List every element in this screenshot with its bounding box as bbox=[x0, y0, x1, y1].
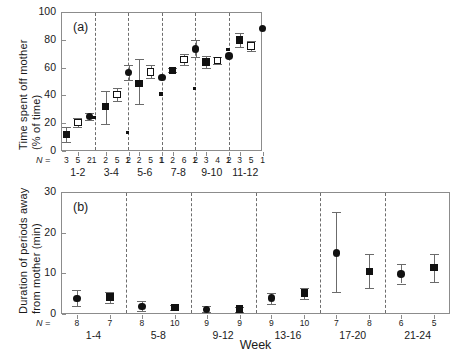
error-bar-cap-upper bbox=[430, 254, 439, 255]
n-value: 9 bbox=[200, 318, 214, 328]
group-label: 17-20 bbox=[323, 329, 383, 341]
x-tick-mark bbox=[106, 152, 107, 156]
marker-open-square bbox=[247, 42, 255, 50]
marker-filled-square bbox=[63, 131, 71, 139]
marker-filled-circle bbox=[73, 295, 81, 303]
error-bar-cap-upper bbox=[146, 65, 155, 66]
panel-letter: (b) bbox=[73, 200, 88, 214]
y-tick-mark bbox=[62, 151, 66, 152]
y-axis-title-line2: (% of time) bbox=[30, 39, 43, 150]
error-bar-cap-upper bbox=[124, 65, 133, 66]
group-label: 21-24 bbox=[388, 329, 448, 341]
group-label: 5-8 bbox=[128, 329, 188, 341]
error-bar-cap-lower bbox=[146, 78, 155, 79]
group-divider bbox=[126, 193, 127, 313]
error-bar-cap-lower bbox=[191, 57, 200, 58]
x-tick-mark bbox=[240, 315, 241, 319]
n-row-label: N = bbox=[36, 318, 50, 328]
y-axis-title-line1: Duration of periods away bbox=[17, 188, 30, 314]
x-tick-mark bbox=[110, 315, 111, 319]
group-divider bbox=[385, 193, 386, 313]
marker-filled-square bbox=[236, 305, 244, 313]
x-axis-title: Week bbox=[196, 338, 316, 352]
x-tick-mark bbox=[173, 152, 174, 156]
marker-filled-square bbox=[169, 67, 177, 75]
n-value: 8 bbox=[362, 318, 376, 328]
x-tick-mark bbox=[207, 315, 208, 319]
n-value: 7 bbox=[329, 318, 343, 328]
marker-filled-circle bbox=[333, 249, 341, 257]
error-bar-cap-lower bbox=[105, 303, 114, 304]
group-label: 1-4 bbox=[63, 329, 123, 341]
x-tick-mark bbox=[434, 315, 435, 319]
marker-filled-square bbox=[135, 80, 143, 88]
error-bar-cap-upper bbox=[72, 290, 81, 291]
y-axis-title-line2: from mother (min) bbox=[30, 188, 43, 314]
marker-filled-circle bbox=[138, 303, 146, 311]
group-divider bbox=[320, 193, 321, 313]
marker-filled-square bbox=[430, 264, 438, 272]
marker-small-dot bbox=[193, 87, 196, 90]
n-value: 10 bbox=[297, 318, 311, 328]
y-tick-mark bbox=[62, 273, 66, 274]
y-tick-mark bbox=[62, 314, 66, 315]
error-bar-cap-upper bbox=[397, 264, 406, 265]
n-row-label: N = bbox=[36, 155, 50, 165]
marker-filled-circle bbox=[397, 270, 405, 278]
group-divider bbox=[162, 13, 163, 150]
error-bar-cap-upper bbox=[62, 127, 71, 128]
marker-small-dot bbox=[126, 131, 129, 134]
y-tick-mark bbox=[62, 95, 66, 96]
error-bar-cap-lower bbox=[180, 65, 189, 66]
error-bar-cap-lower bbox=[135, 104, 144, 105]
marker-open-square bbox=[214, 57, 222, 65]
marker-filled-circle bbox=[86, 113, 94, 121]
error-bar-cap-lower bbox=[300, 299, 309, 300]
error-bar-cap-upper bbox=[135, 59, 144, 60]
y-axis-title-line1: Time spent off mother bbox=[17, 39, 30, 150]
x-tick-mark bbox=[78, 152, 79, 156]
error-bar-cap-lower bbox=[365, 288, 374, 289]
marker-filled-circle bbox=[259, 25, 267, 33]
error-bar-cap-lower bbox=[101, 124, 110, 125]
n-value: 8 bbox=[135, 318, 149, 328]
error-bar-cap-lower bbox=[247, 51, 256, 52]
n-value: 9 bbox=[233, 318, 247, 328]
x-tick-mark bbox=[206, 152, 207, 156]
error-bar-cap-lower bbox=[430, 282, 439, 283]
error-bar-cap-lower bbox=[72, 306, 81, 307]
x-tick-mark bbox=[271, 315, 272, 319]
error-bar-cap-lower bbox=[202, 68, 211, 69]
error-bar-cap-upper bbox=[101, 91, 110, 92]
n-value: 1 bbox=[256, 155, 270, 165]
marker-filled-square bbox=[236, 36, 244, 44]
y-axis-title: Time spent off mother(% of time) bbox=[17, 39, 43, 150]
marker-filled-square bbox=[202, 58, 210, 66]
group-divider bbox=[256, 193, 257, 313]
n-value: 6 bbox=[394, 318, 408, 328]
x-tick-mark bbox=[401, 315, 402, 319]
error-bar-cap-lower bbox=[113, 101, 122, 102]
marker-open-square bbox=[147, 68, 155, 76]
x-tick-mark bbox=[240, 152, 241, 156]
error-bar-cap-lower bbox=[137, 311, 146, 312]
n-value: 10 bbox=[168, 318, 182, 328]
marker-filled-square bbox=[102, 103, 110, 111]
marker-filled-circle bbox=[192, 45, 200, 53]
error-bar-cap-upper bbox=[365, 254, 374, 255]
x-tick-mark bbox=[336, 315, 337, 319]
x-tick-mark bbox=[304, 315, 305, 319]
error-bar-cap-upper bbox=[235, 33, 244, 34]
marker-open-square bbox=[74, 119, 82, 127]
marker-filled-circle bbox=[158, 74, 166, 82]
y-tick-mark bbox=[62, 123, 66, 124]
marker-filled-circle bbox=[268, 294, 276, 302]
x-tick-mark bbox=[142, 315, 143, 319]
error-bar-cap-lower bbox=[267, 304, 276, 305]
y-tick-mark bbox=[62, 192, 66, 193]
marker-filled-square bbox=[366, 268, 374, 276]
y-tick-mark bbox=[62, 68, 66, 69]
y-tick-mark bbox=[62, 12, 66, 13]
n-value: 8 bbox=[70, 318, 84, 328]
n-value: 5 bbox=[427, 318, 441, 328]
